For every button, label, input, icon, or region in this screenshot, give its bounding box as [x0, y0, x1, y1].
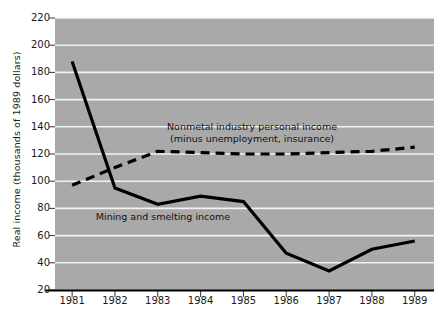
x-tick-label: 1985 [219, 295, 267, 306]
annotation-nonmetal-line2: (minus unemployment, insurance) [152, 133, 352, 145]
x-tick-label: 1988 [348, 295, 396, 306]
x-tick-label: 1986 [262, 295, 310, 306]
annotation-nonmetal: Nonmetal industry personal income (minus… [152, 121, 352, 144]
annotation-nonmetal-line1: Nonmetal industry personal income [152, 121, 352, 133]
x-tick-label: 1984 [177, 295, 225, 306]
x-axis-tick-labels: 198119821983198419851986198719881989 [0, 0, 447, 320]
chart-figure: Real income (thousands of 1989 dollars) … [0, 0, 447, 320]
x-tick-label: 1989 [391, 295, 439, 306]
x-tick-label: 1981 [48, 295, 96, 306]
x-tick-label: 1987 [305, 295, 353, 306]
annotation-mining-line1: Mining and smelting income [78, 211, 248, 223]
annotation-mining: Mining and smelting income [78, 211, 248, 223]
x-tick-label: 1982 [91, 295, 139, 306]
x-tick-label: 1983 [134, 295, 182, 306]
